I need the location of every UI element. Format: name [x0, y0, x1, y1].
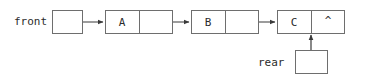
node-a-divider: [139, 11, 140, 33]
node-c-data-value: C: [277, 17, 311, 28]
node-c-null-pointer-symbol: ^: [311, 15, 345, 26]
front-pointer-box: [52, 10, 83, 34]
node-b-divider: [225, 11, 226, 33]
rear-pointer-box: [295, 50, 328, 74]
node-b-data-value: B: [191, 17, 225, 28]
front-pointer-label: front: [14, 16, 47, 27]
rear-pointer-label: rear: [258, 57, 285, 68]
node-a-data-value: A: [105, 17, 139, 28]
